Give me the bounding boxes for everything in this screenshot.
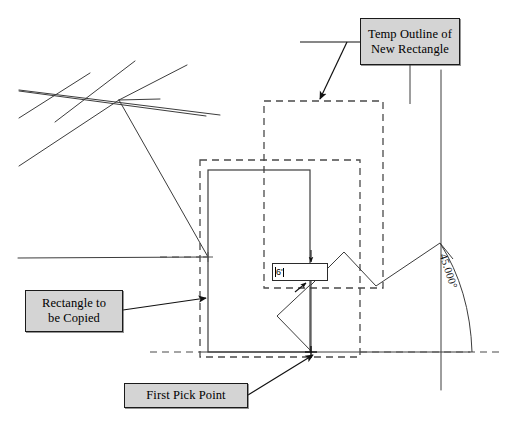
line-node-to-right bbox=[119, 99, 160, 100]
line-node-down-to-corner bbox=[119, 100, 208, 257]
leader-rectangle-copied bbox=[123, 298, 206, 310]
dimension-input[interactable]: 6' bbox=[272, 263, 328, 281]
source-rectangle bbox=[208, 170, 310, 352]
callout-temp-outline-line1: Temp Outline of bbox=[368, 27, 452, 42]
callout-first-pick-line1: First Pick Point bbox=[146, 388, 225, 403]
diagram-stage: Temp Outline of New Rectangle Rectangle … bbox=[0, 0, 507, 437]
leader-temp-outline-arrow bbox=[320, 42, 347, 99]
selection-window-outline bbox=[200, 160, 360, 357]
zigzag-polyline-lower bbox=[277, 285, 312, 352]
callout-rectangle-copied-line1: Rectangle to bbox=[42, 296, 106, 311]
temp-new-rectangle-outline bbox=[264, 101, 383, 288]
callout-rectangle-copied-line2: be Copied bbox=[48, 311, 100, 326]
callout-rectangle-to-be-copied: Rectangle to be Copied bbox=[25, 290, 123, 332]
line-cross-b bbox=[55, 61, 135, 122]
leader-first-pick bbox=[248, 355, 313, 395]
snap-marker-icon bbox=[203, 252, 213, 262]
text-caret-icon bbox=[283, 268, 284, 277]
zigzag-polyline-right bbox=[311, 243, 453, 286]
line-node-to-upper-right bbox=[119, 65, 187, 100]
cad-drawing-canvas bbox=[0, 0, 507, 437]
line-cross-a bbox=[19, 91, 206, 116]
line-upper-diagonal-a bbox=[19, 90, 220, 115]
existing-geometry-lines bbox=[18, 65, 470, 390]
line-horizontal-mid-left bbox=[18, 257, 208, 258]
dimension-input-value: 6' bbox=[275, 267, 283, 277]
callout-temp-outline-line2: New Rectangle bbox=[371, 42, 449, 57]
callout-temp-outline: Temp Outline of New Rectangle bbox=[360, 18, 460, 65]
line-long-diagonal-up bbox=[19, 100, 119, 166]
callout-first-pick-point: First Pick Point bbox=[124, 383, 248, 408]
